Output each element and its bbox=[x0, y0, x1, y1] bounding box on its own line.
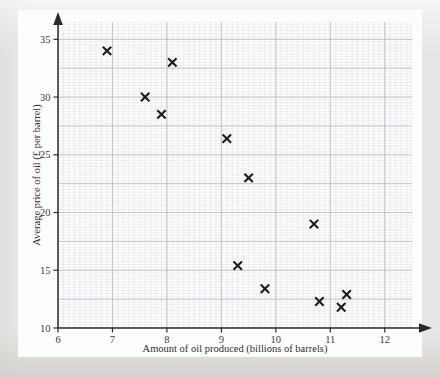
x-axis-title: Amount of oil produced (billions of barr… bbox=[143, 343, 328, 355]
x-tick-label: 6 bbox=[55, 334, 60, 345]
y-tick-label: 10 bbox=[40, 323, 51, 334]
y-axis-arrow-icon bbox=[53, 12, 63, 25]
scatter-chart: 6789101112 101520253035 Amount of oil pr… bbox=[0, 0, 440, 377]
x-tick-label: 12 bbox=[380, 334, 391, 345]
chart-svg: 6789101112 101520253035 Amount of oil pr… bbox=[0, 0, 440, 377]
figure-page: 6789101112 101520253035 Amount of oil pr… bbox=[0, 0, 440, 377]
y-tick-label: 35 bbox=[40, 34, 51, 45]
x-axis-arrow-icon bbox=[419, 323, 432, 333]
y-axis-title: Average price of oil (£ per barrel) bbox=[31, 104, 43, 246]
x-tick-label: 7 bbox=[110, 334, 115, 345]
y-tick-label: 30 bbox=[40, 92, 51, 103]
y-tick-label: 15 bbox=[40, 265, 51, 276]
y-axis-ticks: 101520253035 bbox=[40, 34, 58, 334]
